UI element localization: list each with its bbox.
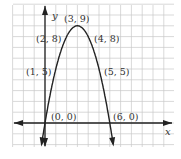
y-axis-up-arrow-icon [42,6,48,15]
point-label-1-5: (1, 5) [26,66,52,77]
y-axis-label: y [51,10,58,21]
parabola-chart: x y (3, 9) (2, 8) (4, 8) (1, 5) (5, 5) (… [0,0,181,159]
point-label-4-8: (4, 8) [94,33,120,44]
point-labels: (3, 9) (2, 8) (4, 8) (1, 5) (5, 5) (0, 0… [26,13,139,122]
x-axis-left-arrow-icon [14,120,23,126]
x-axis-label: x [165,126,171,137]
point-label-2-8: (2, 8) [36,33,62,44]
point-label-5-5: (5, 5) [104,66,130,77]
point-label-6-0: (6, 0) [113,111,139,122]
point-label-3-9: (3, 9) [64,13,90,24]
point-label-0-0: (0, 0) [51,111,77,122]
